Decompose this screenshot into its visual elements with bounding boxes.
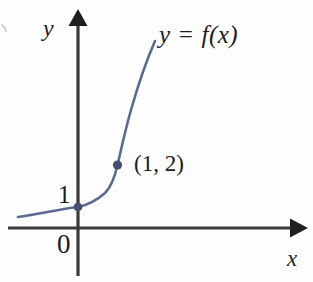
- x-axis-arrowhead: [290, 219, 308, 238]
- y-axis-arrowhead: [69, 9, 88, 26]
- y-axis-tick-label-1: 1: [58, 182, 71, 207]
- data-point-1-2: [113, 160, 122, 169]
- stray-scan-mark: [2, 25, 6, 31]
- function-curve: [18, 41, 155, 217]
- x-axis-label: x: [287, 247, 297, 270]
- curve-label-function: y = f(x): [159, 22, 238, 47]
- origin-label: 0: [57, 231, 71, 258]
- graph-canvas: [0, 0, 313, 282]
- data-point-y-intercept: [74, 203, 83, 212]
- function-graph-figure: y = f(x) (1, 2) y x 1 0: [0, 0, 313, 282]
- y-axis-label: y: [43, 16, 54, 40]
- point-label-1-2: (1, 2): [134, 152, 184, 175]
